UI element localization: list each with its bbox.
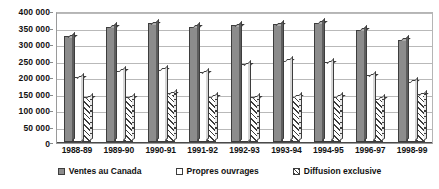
bar-side-face: [415, 78, 418, 141]
bar: [356, 30, 365, 142]
bar-groups: [57, 13, 432, 142]
bar-side-face: [373, 71, 376, 141]
bar: [323, 62, 332, 142]
bar-side-face: [197, 23, 200, 141]
bar: [198, 72, 207, 142]
chart-legend: Ventes au CanadaPropres ouvragesDiffusio…: [0, 167, 439, 176]
bar-group: [265, 13, 307, 142]
bar-side-face: [281, 20, 284, 141]
legend-item: Propres ouvrages: [176, 167, 259, 176]
bar-side-face: [132, 93, 135, 141]
y-axis-tick: [50, 111, 53, 112]
bar-side-face: [156, 19, 159, 141]
bar: [64, 36, 73, 142]
bar: [273, 24, 282, 142]
y-axis-tick: [50, 45, 53, 46]
bar-group: [182, 13, 224, 142]
bar-side-face: [123, 67, 126, 142]
legend-label: Diffusion exclusive: [304, 167, 381, 176]
bar-side-face: [248, 60, 251, 141]
bar-side-face: [257, 93, 260, 141]
bar-group: [307, 13, 349, 142]
y-axis-tick-label: 0: [45, 140, 50, 149]
bar: [207, 97, 216, 143]
bar: [314, 23, 323, 142]
x-axis-tick-label: 1989-90: [98, 146, 140, 155]
plot-area: [56, 12, 433, 144]
bar: [332, 97, 341, 143]
x-axis-tick-label: 1994-95: [307, 146, 349, 155]
bar: [189, 27, 198, 142]
y-axis-tick-label: 50 000: [23, 123, 50, 132]
x-axis-tick-label: 1996-97: [349, 146, 391, 155]
x-axis-tick-label: 1991-92: [182, 146, 224, 155]
y-axis-tick-label: 150 000: [19, 90, 50, 99]
bar: [398, 40, 407, 142]
bar-side-face: [81, 73, 84, 141]
bar-side-face: [174, 89, 177, 141]
x-axis-tick-label: 1988-89: [56, 146, 98, 155]
y-axis-tick: [50, 62, 53, 63]
bar-group: [390, 13, 432, 142]
bar-chart: 400 000350 000300 000250 000200 000150 0…: [0, 0, 439, 189]
bar-side-face: [299, 93, 302, 142]
x-axis-line: [57, 142, 432, 143]
bar: [106, 27, 115, 142]
bar-group: [57, 13, 99, 142]
bar-side-face: [72, 32, 75, 141]
bar-group: [224, 13, 266, 142]
bar-side-face: [406, 36, 409, 141]
y-axis-tick: [50, 128, 53, 129]
bar-side-face: [364, 26, 367, 141]
y-axis-tick: [50, 143, 53, 144]
bar-side-face: [382, 95, 385, 141]
y-axis-tick: [50, 78, 53, 79]
bar-side-face: [165, 66, 168, 141]
legend-swatch-icon: [176, 168, 183, 175]
bar-side-face: [215, 93, 218, 142]
bar: [148, 23, 157, 142]
legend-item: Ventes au Canada: [58, 167, 142, 176]
x-axis-tick-label: 1992-93: [224, 146, 266, 155]
y-axis-tick-label: 250 000: [19, 57, 50, 66]
x-axis-labels: 1988-891989-901990-911991-921992-931993-…: [56, 146, 433, 155]
bar-side-face: [239, 21, 242, 141]
bar-side-face: [322, 19, 325, 141]
bar-group: [140, 13, 182, 142]
bar-side-face: [114, 23, 117, 141]
bar-side-face: [331, 58, 334, 141]
bar-group: [99, 13, 141, 142]
bar-side-face: [340, 93, 343, 142]
x-axis-tick-label: 1993-94: [265, 146, 307, 155]
y-axis-tick-label: 350 000: [19, 24, 50, 33]
bar: [73, 77, 82, 142]
y-axis-tick-label: 400 000: [19, 8, 50, 17]
legend-swatch-icon: [58, 168, 65, 175]
y-axis-tick-label: 300 000: [19, 41, 50, 50]
bar-side-face: [90, 93, 93, 141]
y-axis-tick-label: 100 000: [19, 107, 50, 116]
x-axis-tick-label: 1990-91: [140, 146, 182, 155]
legend-label: Ventes au Canada: [69, 167, 142, 176]
y-axis-tick: [50, 29, 53, 30]
plot-wrap: 400 000350 000300 000250 000200 000150 0…: [0, 0, 439, 162]
y-axis-labels: 400 000350 000300 000250 000200 000150 0…: [0, 12, 53, 144]
legend-item: Diffusion exclusive: [293, 167, 381, 176]
legend-label: Propres ouvrages: [187, 167, 259, 176]
bar: [231, 25, 240, 142]
y-axis-tick: [50, 12, 53, 13]
bar-side-face: [424, 90, 427, 141]
bar-side-face: [290, 57, 293, 141]
bar-side-face: [206, 68, 209, 141]
x-axis-tick-label: 1998-99: [391, 146, 433, 155]
y-axis-tick: [50, 95, 53, 96]
legend-swatch-icon: [293, 168, 300, 175]
y-axis-tick-label: 200 000: [19, 74, 50, 83]
bar: [82, 97, 91, 142]
bar-group: [349, 13, 391, 142]
